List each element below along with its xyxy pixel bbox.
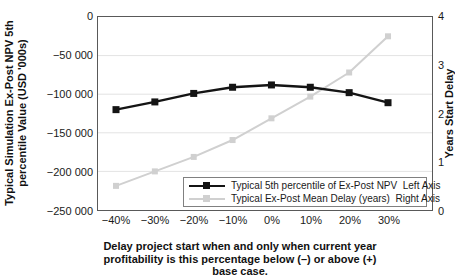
x-axis-title-line2: profitability is this percentage below (… bbox=[40, 253, 440, 266]
delay-data-point bbox=[152, 168, 158, 174]
left-axis-tick: −50 000 bbox=[33, 49, 93, 61]
npv-data-point bbox=[346, 89, 353, 96]
npv-data-point bbox=[229, 84, 236, 91]
delay-series-swatch bbox=[188, 194, 226, 203]
x-axis-title-line3: base case. bbox=[40, 265, 440, 278]
delay-square-marker-icon bbox=[203, 195, 210, 202]
left-axis-tick: −100 000 bbox=[33, 88, 93, 100]
npv-data-point bbox=[385, 99, 392, 106]
legend-label-delay: Typical Ex-Post Mean Delay (years) Right… bbox=[226, 193, 440, 204]
left-axis-tick: −200 000 bbox=[33, 166, 93, 178]
x-axis-title: Delay project start when and only when c… bbox=[40, 240, 440, 278]
left-axis-tick: 0 bbox=[33, 10, 93, 22]
delay-data-point bbox=[268, 115, 274, 121]
x-axis-title-line1: Delay project start when and only when c… bbox=[40, 240, 440, 253]
right-axis-tick: 1 bbox=[438, 156, 454, 168]
npv-data-point bbox=[190, 90, 197, 97]
delay-series-line bbox=[116, 36, 388, 186]
left-y-axis-title-line2: percentile Value (USD '000s) bbox=[16, 0, 29, 228]
legend-label-npv: Typical 5th percentile of Ex-Post NPV Le… bbox=[226, 180, 441, 191]
right-axis-tick: 0 bbox=[438, 205, 454, 217]
delay-data-point bbox=[113, 183, 119, 189]
left-y-axis-title-line1: Typical Simulation Ex-Post NPV 5th bbox=[3, 0, 16, 228]
chart-figure: Typical Simulation Ex-Post NPV 5th perce… bbox=[0, 0, 455, 279]
left-axis-tick: −250 000 bbox=[33, 205, 93, 217]
legend-item-npv: Typical 5th percentile of Ex-Post NPV Le… bbox=[188, 179, 422, 192]
right-axis-tick: 3 bbox=[438, 59, 454, 71]
npv-data-point bbox=[151, 98, 158, 105]
npv-series-swatch bbox=[188, 181, 226, 190]
npv-square-marker-icon bbox=[203, 182, 210, 189]
right-axis-tick: 2 bbox=[438, 108, 454, 120]
delay-data-point bbox=[307, 94, 313, 100]
right-axis-tick: 4 bbox=[438, 10, 454, 22]
npv-data-point bbox=[113, 106, 120, 113]
delay-data-point bbox=[230, 137, 236, 143]
delay-data-point bbox=[191, 154, 197, 160]
legend-box: Typical 5th percentile of Ex-Post NPV Le… bbox=[183, 177, 427, 207]
npv-data-point bbox=[307, 84, 314, 91]
left-y-axis-title: Typical Simulation Ex-Post NPV 5th perce… bbox=[3, 0, 29, 228]
legend-item-delay: Typical Ex-Post Mean Delay (years) Right… bbox=[188, 192, 422, 205]
npv-series-line bbox=[116, 85, 388, 110]
delay-data-point bbox=[346, 69, 352, 75]
npv-data-point bbox=[268, 81, 275, 88]
delay-data-point bbox=[385, 33, 391, 39]
left-axis-tick: −150 000 bbox=[33, 127, 93, 139]
x-axis-tick: 30% bbox=[364, 214, 414, 227]
